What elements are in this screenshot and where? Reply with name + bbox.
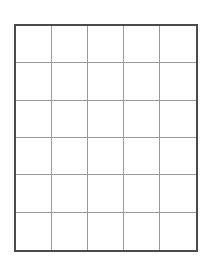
grid-cell xyxy=(52,63,88,100)
grid-cell xyxy=(16,138,52,175)
grid-cell xyxy=(52,175,88,212)
grid-cell xyxy=(160,175,196,212)
grid-cell xyxy=(16,63,52,100)
grid-cell xyxy=(16,26,52,63)
grid-cell xyxy=(124,138,160,175)
grid-cell xyxy=(52,138,88,175)
grid-cell xyxy=(160,101,196,138)
grid-cell xyxy=(88,26,124,63)
grid-cell xyxy=(88,213,124,250)
grid-cell xyxy=(124,213,160,250)
grid-cell xyxy=(88,101,124,138)
grid-cell xyxy=(160,213,196,250)
grid-cell xyxy=(124,26,160,63)
grid-cell xyxy=(160,63,196,100)
grid-cell xyxy=(160,26,196,63)
grid-cell xyxy=(52,26,88,63)
grid-cell xyxy=(160,138,196,175)
grid-cell xyxy=(88,63,124,100)
grid-cell xyxy=(124,63,160,100)
grid-cell xyxy=(16,101,52,138)
grid-cell xyxy=(52,213,88,250)
grid-cell xyxy=(124,175,160,212)
grid-cell xyxy=(88,175,124,212)
grid-cell xyxy=(88,138,124,175)
empty-grid-table xyxy=(14,24,198,252)
grid-cell xyxy=(16,175,52,212)
canvas xyxy=(0,0,209,273)
grid-cell xyxy=(52,101,88,138)
grid-cell xyxy=(16,213,52,250)
grid-cell xyxy=(124,101,160,138)
